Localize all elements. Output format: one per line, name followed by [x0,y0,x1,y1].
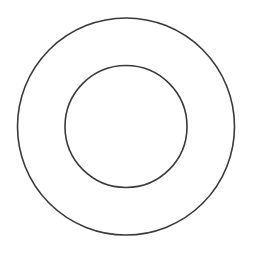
outer-circle [18,18,235,235]
concentric-circles-diagram [0,0,256,254]
inner-circle [65,66,187,188]
